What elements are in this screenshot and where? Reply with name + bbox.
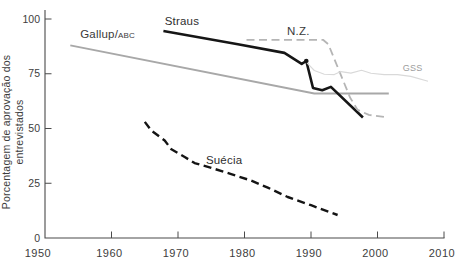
series-label-straus: Straus xyxy=(165,15,199,27)
y-axis-title: Porcentagem de aprovação dos entrevistad… xyxy=(0,24,26,240)
series-label-nz: N.Z. xyxy=(287,25,310,37)
y-tick-label: 75 xyxy=(28,67,40,79)
x-tick-label: 1980 xyxy=(229,247,255,259)
y-tick-label: 50 xyxy=(28,122,40,134)
series-line-gallup xyxy=(70,45,389,93)
x-tick-label: 2000 xyxy=(362,247,388,259)
series-line-suecia xyxy=(145,122,338,215)
series-label-suecia: Suécia xyxy=(206,154,243,166)
chart-figure: Porcentagem de aprovação dos entrevistad… xyxy=(0,0,462,275)
y-tick-label: 25 xyxy=(28,177,40,189)
x-tick-label: 1950 xyxy=(25,247,51,259)
x-tick-label: 2010 xyxy=(429,247,455,259)
y-tick-label: 0 xyxy=(34,232,40,244)
x-tick-label: 1960 xyxy=(96,247,122,259)
series-marker-straus xyxy=(304,59,309,64)
series-line-nz xyxy=(247,40,387,117)
x-tick-label: 1970 xyxy=(163,247,189,259)
line-chart: 02550751001950196019701980199020002010Ga… xyxy=(0,0,462,275)
series-label-gss: GSS xyxy=(403,63,423,73)
x-tick-label: 1990 xyxy=(296,247,322,259)
series-label-gallup: Gallup/ABC xyxy=(80,28,135,40)
y-tick-label: 100 xyxy=(22,13,40,25)
